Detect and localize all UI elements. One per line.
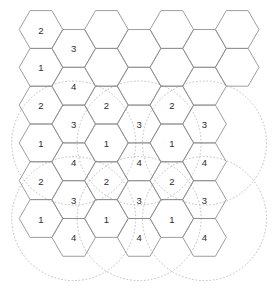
- hex-cell-label: 1: [38, 214, 43, 225]
- hex-cell[interactable]: [117, 30, 161, 68]
- hex-cell-label: 3: [71, 119, 76, 130]
- hex-cell-label: 2: [38, 176, 43, 187]
- hex-cell[interactable]: [150, 11, 194, 49]
- hex-cell-label: 2: [38, 25, 43, 36]
- hex-cell-label: 4: [136, 157, 141, 168]
- hex-cell-label: 2: [104, 100, 109, 111]
- hex-cell[interactable]: [215, 11, 259, 49]
- hex-cell-label: 4: [136, 232, 141, 243]
- hex-cell-label: 4: [202, 157, 207, 168]
- hex-cell-label: 1: [38, 62, 43, 73]
- hex-cell-label: 2: [104, 176, 109, 187]
- hex-cell-layer: [19, 11, 259, 257]
- hex-cell-label: 2: [38, 100, 43, 111]
- hex-cell[interactable]: [183, 30, 227, 68]
- hex-cell-label: 1: [104, 214, 109, 225]
- hex-cell[interactable]: [85, 11, 129, 49]
- hex-cell[interactable]: [150, 48, 194, 86]
- hex-cell-label: 4: [202, 232, 207, 243]
- hex-cell-label: 3: [136, 119, 141, 130]
- hex-cell-label: 1: [169, 138, 174, 149]
- hex-cell[interactable]: [215, 48, 259, 86]
- hex-cell-label: 1: [104, 138, 109, 149]
- hex-cell-label: 2: [169, 176, 174, 187]
- hex-cell[interactable]: [117, 67, 161, 105]
- hex-cell-label: 3: [71, 43, 76, 54]
- hex-cell-label: 4: [71, 157, 76, 168]
- hex-cell[interactable]: [85, 48, 129, 86]
- hex-cell-label: 4: [71, 81, 76, 92]
- hex-cell-label: 3: [136, 195, 141, 206]
- hex-cell-label: 1: [169, 214, 174, 225]
- hex-cell-label: 3: [202, 195, 207, 206]
- hex-cell[interactable]: [183, 67, 227, 105]
- hex-cell-label: 2: [169, 100, 174, 111]
- hex-cluster-diagram: 2121213434342121343421213434: [0, 0, 275, 298]
- hex-grid-canvas: 2121213434342121343421213434: [0, 0, 275, 298]
- hex-cell-label: 3: [71, 195, 76, 206]
- hex-cell-label: 4: [71, 232, 76, 243]
- hex-cell-label: 1: [38, 138, 43, 149]
- hex-cell-label: 3: [202, 119, 207, 130]
